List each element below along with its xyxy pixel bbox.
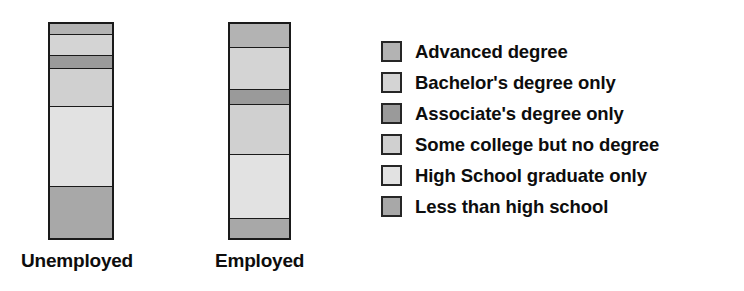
legend-swatch: [381, 72, 402, 93]
legend-swatch: [381, 103, 402, 124]
bar-segment: [230, 90, 289, 105]
legend-swatch: [381, 165, 402, 186]
legend-swatch: [381, 134, 402, 155]
bar-segment: [230, 105, 289, 154]
bar-label-employed: Employed: [215, 250, 304, 272]
bar-segment: [230, 155, 289, 219]
bar-segment: [230, 219, 289, 238]
bar-segment: [50, 107, 112, 186]
bar-segment: [230, 24, 289, 48]
legend-item: Some college but no degree: [381, 129, 659, 160]
legend-label: Associate's degree only: [415, 103, 624, 125]
bar-segment: [230, 48, 289, 91]
legend-item: Associate's degree only: [381, 98, 659, 129]
bar-segment: [50, 35, 112, 56]
bar-segment: [50, 24, 112, 35]
legend-label: Some college but no degree: [415, 134, 659, 156]
legend-item: Bachelor's degree only: [381, 67, 659, 98]
legend-item: Less than high school: [381, 191, 659, 222]
chart-legend: Advanced degreeBachelor's degree onlyAss…: [381, 36, 659, 222]
legend-label: Less than high school: [415, 196, 608, 218]
legend-item: High School graduate only: [381, 160, 659, 191]
legend-swatch: [381, 196, 402, 217]
bar-employed: [228, 22, 291, 240]
bar-segment: [50, 187, 112, 238]
legend-label: Advanced degree: [415, 41, 568, 63]
legend-label: High School graduate only: [415, 165, 647, 187]
bar-segment: [50, 56, 112, 69]
legend-item: Advanced degree: [381, 36, 659, 67]
bar-segment: [50, 69, 112, 108]
legend-label: Bachelor's degree only: [415, 72, 616, 94]
legend-swatch: [381, 41, 402, 62]
stacked-bar-chart: Unemployed Employed Advanced degreeBache…: [0, 0, 744, 291]
bar-unemployed: [48, 22, 114, 240]
bar-label-unemployed: Unemployed: [21, 250, 133, 272]
